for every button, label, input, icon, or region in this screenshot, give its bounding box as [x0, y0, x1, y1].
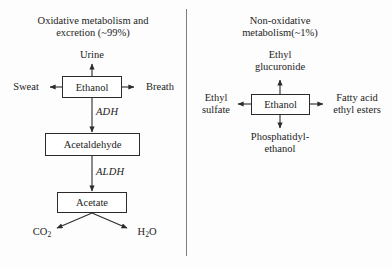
co2-formula-main: CO — [33, 226, 48, 237]
box-acetate: Acetate — [57, 192, 127, 213]
node-urine: Urine — [62, 49, 122, 61]
node-co2: CO2 — [22, 226, 62, 241]
right-panel-title-line2: metabolism(~1%) — [200, 27, 360, 40]
node-ethyl-glucuronide-line1: Ethyl — [240, 49, 320, 61]
node-breath: Breath — [138, 81, 182, 93]
node-phosphatidylethanol-line2: ethanol — [235, 143, 325, 155]
node-sweat: Sweat — [6, 81, 46, 93]
box-ethanol-nonoxidative: Ethanol — [251, 94, 310, 115]
left-panel-title-line2: excretion (~99%) — [8, 27, 178, 40]
node-ethyl-sulfate-line2: sulfate — [196, 104, 236, 116]
node-phosphatidylethanol-line1: Phosphatidyl- — [235, 131, 325, 143]
node-fatty-acid-ethyl-esters-line2: ethyl esters — [326, 104, 388, 116]
left-panel-title-line1: Oxidative metabolism and — [8, 15, 178, 28]
diagram-canvas: Oxidative metabolism and excretion (~99%… — [0, 0, 392, 268]
h2o-formula-o: O — [149, 226, 157, 237]
panel-divider — [186, 9, 187, 256]
box-ethanol-oxidative: Ethanol — [62, 76, 122, 98]
co2-formula-subscript: 2 — [47, 230, 51, 239]
right-panel-title-line1: Non-oxidative — [200, 15, 360, 28]
node-ethyl-glucuronide-line2: glucuronide — [240, 61, 320, 73]
arrow-acetate-to-h2o — [92, 213, 127, 228]
box-acetaldehyde: Acetaldehyde — [45, 133, 140, 156]
enzyme-adh-label: ADH — [96, 106, 136, 118]
enzyme-aldh-label: ALDH — [96, 166, 138, 178]
node-ethyl-sulfate-line1: Ethyl — [196, 92, 236, 104]
h2o-formula-h: H — [138, 226, 146, 237]
arrow-acetate-to-co2 — [57, 213, 92, 228]
node-fatty-acid-ethyl-esters-line1: Fatty acid — [326, 92, 388, 104]
node-h2o: H2O — [124, 226, 170, 241]
